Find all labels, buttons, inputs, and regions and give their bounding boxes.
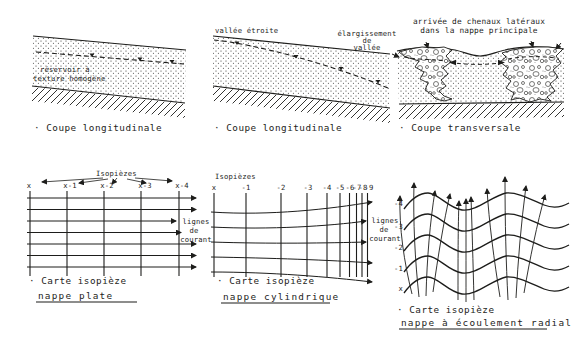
flow-lines-label-line2: de xyxy=(379,225,388,234)
isopieze-label-x: x xyxy=(27,181,32,190)
panel-d-caption: · Carte isopièze xyxy=(29,275,127,286)
panel-carte-isopieze-nappe-plate: Isopièzes x x-1 x-2 x-3 x-4 xyxy=(27,169,212,302)
isopieze-label-x3: x-3 xyxy=(138,181,152,190)
flow-lines xyxy=(211,202,372,282)
isopieze-label-5: -5 xyxy=(335,183,344,192)
flow-lines xyxy=(27,198,196,267)
panel-carte-isopieze-ecoulement-radial: -4 -3 -2 -1 x · Carte isopièze nappe à é… xyxy=(394,177,572,329)
isopieze-row-label-m4: -4 xyxy=(394,199,403,208)
isopieze-label-1: -1 xyxy=(241,183,250,192)
lateral-channels-label-line1: arrivée de chenaux latéraux xyxy=(413,17,545,26)
panel-d-subcaption: nappe plate xyxy=(38,290,113,301)
flow-lines-label-line1: lignes xyxy=(182,217,209,226)
panel-b-caption: · Coupe longitudinale xyxy=(214,122,342,133)
panel-coupe-longitudinale-homogene: réservoir à texture homogène · Coupe lon… xyxy=(32,36,186,133)
panel-f-caption: · Carte isopièze xyxy=(397,304,495,315)
isopieze-row-label-m2: -2 xyxy=(394,243,403,252)
panel-f-subcaption: nappe à écoulement radial xyxy=(401,317,572,328)
reservoir-label-line1: réservoir à xyxy=(40,65,90,74)
isopieze-label-4: -4 xyxy=(322,183,331,192)
isopiezes-label: Isopièzes xyxy=(96,169,137,178)
narrow-valley-label: vallée étroite xyxy=(215,26,278,35)
isopieze-label-x2: x-2 xyxy=(100,181,114,190)
isopieze-label-9: -9 xyxy=(364,183,373,192)
isopieze-row-label-m1: -1 xyxy=(394,264,403,273)
bedrock-hatch xyxy=(399,103,564,119)
panel-e-subcaption: nappe cylindrique xyxy=(223,291,339,302)
panel-carte-isopieze-nappe-cylindrique: Isopièzes x -1 -2 -3 -4 -5 -6 -7 -8 -9 xyxy=(211,172,401,303)
figure-canvas: réservoir à texture homogène · Coupe lon… xyxy=(0,0,573,339)
isopieze-row-label-m3: -3 xyxy=(394,222,403,231)
reservoir-label-line2: texture homogène xyxy=(33,74,105,83)
panel-coupe-longitudinale-vallee: vallée étroite élargissement de vallée ·… xyxy=(213,26,396,133)
recharge-arrow-right-fan xyxy=(531,41,533,47)
hydrogeology-figure: réservoir à texture homogène · Coupe lon… xyxy=(0,0,573,339)
isopieze-lines xyxy=(30,191,179,276)
isopieze-row-label-x: x xyxy=(398,284,403,293)
isopieze-lines xyxy=(214,193,368,277)
isopieze-label-3: -3 xyxy=(303,183,312,192)
isopieze-label-x: x xyxy=(212,183,217,192)
isopieze-label-x1: x-1 xyxy=(63,181,77,190)
lateral-channels-label-line2: dans la nappe principale xyxy=(420,26,538,35)
valley-widening-label-line3: vallée xyxy=(353,43,380,52)
panel-e-caption: · Carte isopièze xyxy=(217,275,315,286)
flow-lines-label-line3: courant xyxy=(369,234,401,243)
isopieze-label-x4: x-4 xyxy=(175,181,189,190)
panel-coupe-transversale: arrivée de chenaux latéraux dans la napp… xyxy=(392,17,564,133)
panel-c-caption: · Coupe transversale xyxy=(399,122,521,133)
isopiezes-label: Isopièzes xyxy=(215,172,256,181)
flow-lines-label-line3: courant xyxy=(180,235,212,244)
flow-lines-label-line2: de xyxy=(189,226,198,235)
isopieze-label-2: -2 xyxy=(276,183,285,192)
panel-a-caption: · Coupe longitudinale xyxy=(34,122,162,133)
